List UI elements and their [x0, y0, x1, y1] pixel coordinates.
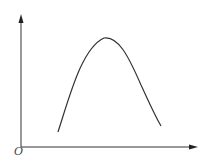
y-axis-arrow-icon [19, 14, 24, 23]
x-axis-arrow-icon [189, 145, 198, 150]
x-axis [21, 145, 198, 150]
origin-label: O [14, 146, 23, 157]
hump-curve [58, 38, 161, 132]
y-axis [19, 14, 24, 147]
hump-curve-diagram [0, 0, 208, 168]
